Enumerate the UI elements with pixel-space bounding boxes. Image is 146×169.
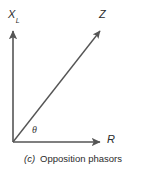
figure-caption: (c)Opposition phasors <box>0 153 146 164</box>
figure-caption-index: (c) <box>24 153 35 164</box>
horizontal-axis-label: R <box>107 134 115 145</box>
vertical-axis-label-main: X <box>8 8 15 20</box>
theta-angle-label: θ <box>32 125 37 135</box>
z-phasor-arrow <box>13 31 100 142</box>
figure-caption-text: Opposition phasors <box>40 153 122 164</box>
vertical-axis-label: XL <box>8 9 19 22</box>
z-phasor-label: Z <box>99 9 106 20</box>
phasor-diagram-canvas <box>0 0 146 169</box>
vertical-axis-label-subscript: L <box>16 17 20 24</box>
phasor-diagram-figure: XL Z R θ (c)Opposition phasors <box>0 0 146 169</box>
